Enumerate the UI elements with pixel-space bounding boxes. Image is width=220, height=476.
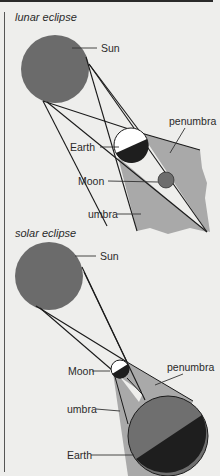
solar-earth [128,396,208,476]
solar-penumbra-leader [155,374,183,385]
solar-umbra-label: umbra [67,403,97,415]
lunar-moon [158,172,174,188]
solar-sun-label: Sun [100,250,119,262]
lunar-sun [21,35,89,103]
lunar-sun-label: Sun [101,42,120,54]
lunar-earth-label: Earth [70,141,95,153]
solar-sun [15,242,83,310]
solar-eclipse-title: solar eclipse [15,227,76,239]
eclipse-diagram: lunar eclipse Sun penumbra [0,0,220,476]
lunar-moon-label: Moon [78,175,104,187]
solar-cone-line [40,308,112,370]
solar-moon-label: Moon [68,365,94,377]
lunar-earth [114,128,149,163]
lunar-eclipse-panel: lunar eclipse Sun penumbra [15,11,216,234]
solar-eclipse-panel: solar eclipse Sun Moon [15,227,214,476]
lunar-penumbra-label: penumbra [169,115,216,127]
solar-penumbra-label: penumbra [167,361,214,373]
solar-earth-label: Earth [67,449,92,461]
solar-umbra-leader [96,409,120,411]
lunar-eclipse-title: lunar eclipse [15,11,77,23]
lunar-umbra-label: umbra [88,208,118,220]
solar-moon [111,360,129,378]
